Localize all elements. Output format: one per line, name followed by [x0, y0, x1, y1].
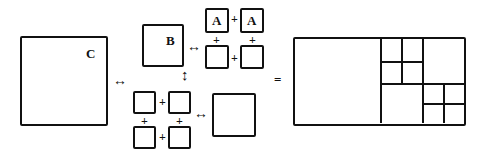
label-a2: A — [247, 14, 256, 27]
small-square — [133, 126, 156, 149]
small-square — [240, 45, 264, 69]
divider — [381, 83, 464, 85]
equivalence-arrow-1: ↔ — [113, 74, 127, 88]
medium-square — [212, 93, 256, 137]
equivalence-arrow-vertical: ↕ — [181, 68, 189, 83]
divider — [380, 39, 382, 123]
square-c: C — [20, 36, 108, 126]
plus-sign: + — [231, 52, 238, 64]
small-square-a2: A — [240, 8, 264, 33]
equals-sign: = — [274, 73, 281, 86]
small-square-a1: A — [205, 8, 229, 33]
small-square — [133, 91, 156, 114]
plus-sign: + — [159, 96, 166, 108]
divider — [422, 39, 424, 123]
equivalence-arrow-3: ↔ — [194, 107, 208, 121]
equivalence-arrow-2: ↔ — [187, 40, 201, 54]
label-c: C — [86, 47, 95, 60]
square-b: B — [142, 24, 184, 67]
plus-sign: + — [231, 13, 238, 25]
divider — [381, 61, 423, 63]
label-a1: A — [212, 14, 221, 27]
plus-sign: + — [159, 131, 166, 143]
small-square — [168, 91, 191, 114]
small-square — [205, 45, 229, 69]
divider — [423, 103, 464, 105]
label-b: B — [166, 34, 175, 47]
result-rectangle — [293, 37, 466, 126]
small-square — [168, 126, 191, 149]
